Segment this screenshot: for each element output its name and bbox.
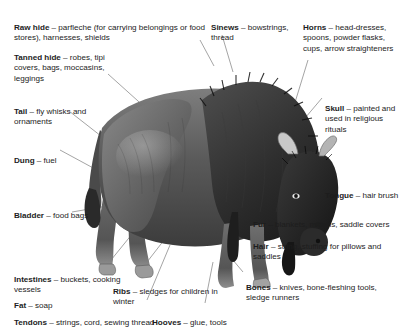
label-uses-tongue: hair brush [362, 191, 398, 200]
label-term-tendons: Tendons [14, 318, 47, 327]
label-term-dung: Dung [14, 156, 35, 165]
label-dash-bladder: – [44, 211, 53, 220]
label-uses-dung: fuel [44, 156, 57, 165]
label-bladder: Bladder – food bags [14, 200, 114, 221]
label-term-ribs: Ribs [113, 287, 130, 296]
label-horns: Horns – head-dresses, spoons, powder fla… [303, 12, 397, 55]
label-term-skull: Skull [325, 104, 344, 113]
label-term-bones: Bones [246, 283, 271, 292]
label-dash-hair: – [269, 242, 278, 251]
label-term-hair: Hair [253, 242, 269, 251]
infographic-canvas: Raw hide – parfleche (for carrying belon… [0, 0, 399, 336]
label-uses-tendons: strings, cord, sewing thread [56, 318, 154, 327]
label-dash-intestines: – [52, 275, 61, 284]
label-dash-fur: – [266, 220, 275, 229]
label-term-hooves: Hooves [152, 318, 181, 327]
label-dash-tendons: – [47, 318, 56, 327]
label-term-bladder: Bladder [14, 211, 44, 220]
label-fur: Fur – blankets, mittens, saddle covers [253, 209, 399, 230]
label-term-sinews: Sinews [211, 23, 239, 32]
label-dash-sinews: – [239, 23, 248, 32]
label-dash-bones: – [271, 283, 280, 292]
label-dash-raw-hide: – [49, 23, 58, 32]
label-raw-hide: Raw hide – parfleche (for carrying belon… [14, 12, 229, 44]
label-term-raw-hide: Raw hide [14, 23, 49, 32]
label-uses-hooves: glue, tools [190, 318, 227, 327]
label-uses-fur: blankets, mittens, saddle covers [275, 220, 390, 229]
label-tail: Tail – fly whisks and ornaments [14, 96, 124, 128]
label-dash-tail: – [27, 107, 36, 116]
label-hooves: Hooves – glue, tools [152, 307, 302, 328]
label-bones: Bones – knives, bone-fleshing tools, sle… [246, 272, 398, 304]
label-dash-dung: – [35, 156, 44, 165]
label-ribs: Ribs – sledges for children in winter [113, 276, 218, 308]
label-skull: Skull – painted and used in religious ri… [325, 93, 399, 136]
label-sinews: Sinews – bowstrings, thread [211, 12, 295, 44]
label-dash-tanned-hide: – [61, 53, 70, 62]
label-dash-horns: – [326, 23, 335, 32]
label-term-fur: Fur [253, 220, 266, 229]
label-term-horns: Horns [303, 23, 326, 32]
label-dash-hooves: – [181, 318, 190, 327]
label-term-intestines: Intestines [14, 275, 52, 284]
label-dash-skull: – [344, 104, 353, 113]
label-term-tanned-hide: Tanned hide [14, 53, 61, 62]
label-term-tail: Tail [14, 107, 27, 116]
label-term-tongue: Tongue [325, 191, 354, 200]
label-tanned-hide: Tanned hide – robes, tipi covers, bags, … [14, 42, 124, 85]
label-uses-bladder: food bags [53, 211, 88, 220]
label-hair: Hair – string, stuffing for pillows and … [253, 231, 399, 263]
label-dung: Dung – fuel [14, 145, 124, 166]
label-tongue: Tongue – hair brush [325, 180, 399, 201]
